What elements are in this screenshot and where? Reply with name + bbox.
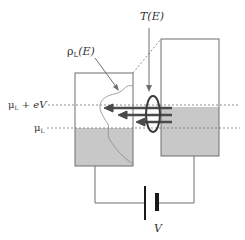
tunneling-diagram: T(E) ρL(E) μL + eV μL V [0, 0, 245, 240]
right-wire [158, 156, 194, 203]
mu-lower-label: μL [34, 122, 45, 134]
barrier-dashed-line [133, 39, 161, 73]
dos-pointer-head [113, 84, 119, 91]
battery-long-plate [144, 186, 146, 220]
battery-short-plate [155, 193, 159, 211]
dos-label: ρL(E) [67, 45, 95, 59]
voltage-label: V [154, 222, 163, 235]
left-wire [95, 166, 145, 203]
tunneling-arrows [104, 104, 172, 126]
mu-upper-label: μL + eV [8, 99, 48, 111]
transmission-label: T(E) [140, 10, 164, 23]
left-electrode-filled-states [75, 128, 133, 166]
transmission-pointer-head [146, 85, 152, 92]
